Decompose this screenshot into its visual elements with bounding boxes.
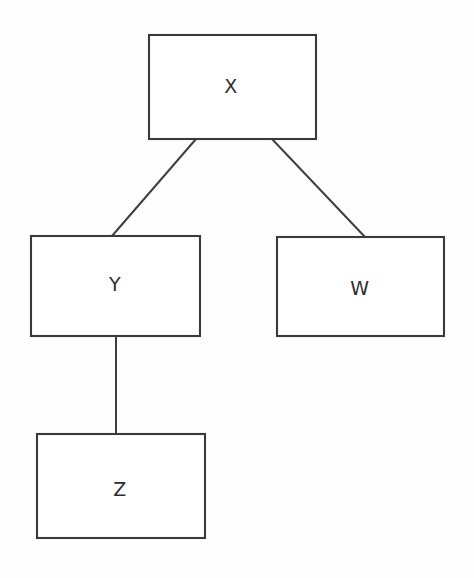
node-z[interactable]: Z <box>37 434 205 538</box>
nodes-group: XYWZ <box>31 35 444 538</box>
edge-x-to-y <box>112 139 196 236</box>
tree-diagram: XYWZ <box>0 0 474 578</box>
node-label-z: Z <box>113 478 127 500</box>
node-x[interactable]: X <box>149 35 316 139</box>
edge-x-to-w <box>272 139 365 237</box>
node-label-x: X <box>224 75 238 97</box>
node-y[interactable]: Y <box>31 236 200 336</box>
node-label-y: Y <box>108 273 121 295</box>
node-w[interactable]: W <box>277 237 444 336</box>
node-label-w: W <box>350 277 369 299</box>
diagram-canvas: XYWZ <box>0 0 474 578</box>
